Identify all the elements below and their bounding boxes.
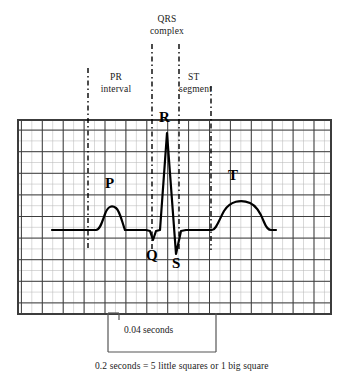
ecg-grid-paper [18,120,331,314]
callout-qrs-line1: QRS [139,15,195,25]
ecg-diagram-canvas [0,0,348,382]
wave-label-q: Q [146,248,158,263]
callout-qrs-complex: QRS complex [139,15,195,36]
scale-caption: 0.2 seconds = 5 little squares or 1 big … [95,362,269,372]
callout-qrs-line2: complex [139,27,195,37]
small-square-duration-label: 0.04 seconds [124,326,173,336]
callout-pr-interval: PR interval [94,73,138,94]
wave-label-r: R [159,110,170,125]
callout-pr-line1: PR [94,73,138,83]
wave-label-p: P [105,176,114,191]
grid-major-lines [18,120,331,314]
wave-label-t: T [228,168,238,183]
callout-st-segment: ST segment [179,73,239,94]
ecg-figure: PR interval QRS complex ST segment P Q R… [0,0,348,382]
wave-label-s: S [172,256,180,271]
callout-st-line2: segment [179,85,239,95]
callout-pr-line2: interval [94,85,138,95]
callout-st-line1: ST [179,73,239,83]
